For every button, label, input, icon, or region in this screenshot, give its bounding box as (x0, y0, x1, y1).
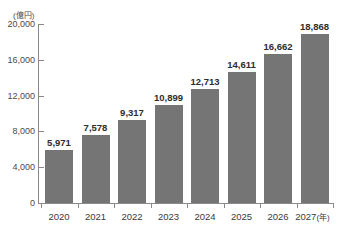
bar (228, 72, 256, 203)
bar (82, 135, 110, 203)
bar (45, 150, 73, 203)
bar-chart: (億円) 04,0008,00012,00016,00020,000 5,971… (0, 0, 338, 237)
y-axis-tick-label: 0 (30, 198, 39, 208)
bar (155, 105, 183, 203)
bar-value-label: 14,611 (224, 59, 260, 70)
bar-value-label: 16,662 (260, 41, 296, 52)
x-axis-category-label: 2027(年) (291, 211, 335, 222)
y-axis-tick-label: 8,000 (12, 126, 39, 136)
bar-group: 10,899 (151, 24, 187, 203)
x-axis-tick (333, 204, 334, 208)
bar-value-label: 5,971 (41, 137, 77, 148)
x-axis-tick (224, 204, 225, 208)
bar-value-label: 18,868 (297, 21, 333, 32)
plot-area: 5,9717,5789,31710,89912,71314,61116,6621… (39, 24, 334, 203)
y-axis-tick-label: 12,000 (7, 91, 39, 101)
x-axis-tick (151, 204, 152, 208)
bar-group: 5,971 (41, 24, 77, 203)
bar-group: 7,578 (78, 24, 114, 203)
bar (301, 34, 329, 203)
bar (264, 54, 292, 203)
bar-group: 16,662 (260, 24, 296, 203)
x-axis-tick (297, 204, 298, 208)
x-axis-line (38, 203, 334, 204)
bar-group: 18,868 (297, 24, 333, 203)
bar-value-label: 9,317 (114, 107, 150, 118)
x-axis-tick (78, 204, 79, 208)
bar (118, 120, 146, 203)
bar-value-label: 7,578 (78, 122, 114, 133)
x-axis-tick (41, 204, 42, 208)
bar-value-label: 10,899 (151, 92, 187, 103)
bar-group: 9,317 (114, 24, 150, 203)
x-axis-unit-label: (年) (316, 213, 329, 222)
x-axis-tick (114, 204, 115, 208)
y-axis-tick-label: 4,000 (12, 162, 39, 172)
bar (191, 89, 219, 203)
y-axis-tick-label: 20,000 (7, 19, 39, 29)
bar-group: 14,611 (224, 24, 260, 203)
x-axis-tick (187, 204, 188, 208)
bar-value-label: 12,713 (187, 76, 223, 87)
y-axis-tick-label: 16,000 (7, 55, 39, 65)
bar-group: 12,713 (187, 24, 223, 203)
x-axis-tick (260, 204, 261, 208)
